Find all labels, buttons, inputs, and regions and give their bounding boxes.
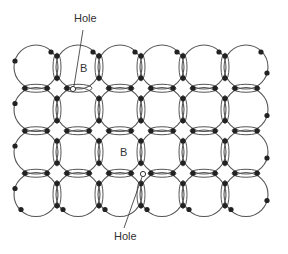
hole-top-marker — [70, 86, 75, 91]
b-top-label: B — [80, 62, 87, 74]
hole-bottom-label: Hole — [114, 230, 137, 242]
lattice-diagram — [0, 0, 288, 254]
hole-top-label: Hole — [74, 12, 97, 24]
lattice-cells — [14, 45, 268, 217]
b-bottom-label: B — [120, 146, 127, 158]
hole-bottom-marker — [140, 171, 145, 176]
